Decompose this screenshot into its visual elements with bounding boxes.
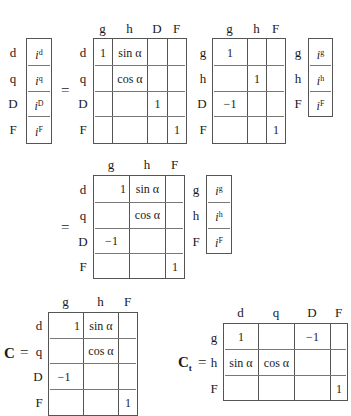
vector-entry: iq — [27, 72, 51, 88]
col-label: h — [83, 295, 118, 309]
vector-entry: iF — [207, 234, 231, 250]
row-label: F — [6, 123, 20, 137]
matrix-cell: 1 — [213, 46, 247, 60]
row-label: d — [6, 46, 20, 60]
vector-entry: ig — [309, 46, 332, 62]
col-label: g — [48, 295, 83, 309]
matrix-cell: 1 — [148, 97, 167, 111]
vector-entry: iD — [27, 97, 51, 113]
col-label: F — [118, 295, 137, 309]
matrix-cell: cos α — [130, 208, 165, 222]
row-label: h — [189, 209, 203, 223]
row-label: q — [76, 209, 90, 223]
col-label: F — [330, 306, 347, 320]
col-label: F — [266, 22, 285, 36]
matrix-cell: cos α — [113, 72, 147, 86]
matrix-cell: −1 — [295, 330, 330, 344]
matrix-cell: 1 — [119, 396, 137, 410]
vector-grid: ig ih iF — [206, 175, 232, 254]
row-label: q — [32, 345, 46, 359]
row-label: D — [195, 97, 209, 111]
row-label: F — [76, 123, 90, 137]
matrix-cell: 1 — [166, 260, 184, 274]
matrix-grid: 1 −1 sin α cos α 1 — [223, 323, 348, 401]
col-label: g — [212, 22, 247, 36]
row-label: D — [31, 370, 45, 384]
matrix-cell: sin α — [130, 182, 165, 196]
row-label: F — [32, 396, 46, 410]
col-label: D — [294, 306, 330, 320]
matrix-grid: 1 sin α cos α −1 1 — [93, 175, 185, 279]
col-label: h — [112, 22, 147, 36]
col-label: h — [129, 158, 165, 172]
equals-sign: = — [198, 354, 206, 371]
matrix-cell: 1 — [168, 123, 186, 137]
vector-entry: ih — [309, 72, 332, 88]
matrix-cell: 1 — [224, 330, 258, 344]
matrix-cell: 1 — [49, 319, 80, 333]
row-label: q — [76, 72, 90, 86]
matrix-cell: sin α — [84, 319, 118, 333]
row-label: d — [76, 46, 90, 60]
matrix-cell: −1 — [94, 234, 129, 248]
matrix-cell: sin α — [224, 356, 258, 370]
matrix-cell: cos α — [259, 356, 294, 370]
row-label: F — [196, 123, 210, 137]
matrix-cell: 1 — [267, 123, 285, 137]
equals-sign: = — [61, 82, 69, 99]
vector-entry: ig — [207, 182, 231, 198]
row-label: g — [189, 183, 203, 197]
equals-sign: = — [61, 219, 69, 236]
col-label: g — [93, 22, 112, 36]
row-label: D — [76, 97, 90, 111]
vector-grid: ig ih iF — [308, 38, 333, 117]
row-label: d — [76, 183, 90, 197]
row-label: g — [196, 46, 210, 60]
matrix-cell: 1 — [248, 72, 266, 86]
row-label: d — [32, 319, 46, 333]
matrix-cell: sin α — [113, 46, 147, 60]
col-label: g — [93, 158, 129, 172]
row-label: g — [291, 46, 305, 60]
row-label: F — [189, 235, 203, 249]
col-label: D — [147, 22, 167, 36]
matrix-name: Ct — [178, 354, 192, 373]
equals-sign: = — [20, 344, 28, 361]
row-label: h — [196, 72, 210, 86]
col-label: F — [165, 158, 184, 172]
matrix-cell: 1 — [94, 182, 126, 196]
row-label: D — [6, 97, 20, 111]
matrix-cell: 1 — [94, 46, 112, 60]
row-label: g — [207, 331, 221, 345]
row-label: h — [291, 72, 305, 86]
row-label: q — [6, 72, 20, 86]
matrix-cell: cos α — [84, 344, 118, 358]
matrix-name: C — [4, 345, 15, 362]
row-label: F — [207, 382, 221, 396]
matrix-grid: 1 1 −1 1 — [212, 38, 286, 144]
matrix-cell: −1 — [213, 97, 247, 111]
matrix-cell: −1 — [49, 370, 79, 384]
vector-entry: id — [27, 46, 51, 62]
matrix-grid: 1 sin α cos α 1 1 — [93, 38, 187, 144]
vector-grid: id iq iD iF — [26, 38, 52, 144]
row-label: F — [76, 260, 90, 274]
col-label: q — [258, 306, 294, 320]
row-label: h — [207, 356, 221, 370]
matrix-cell: 1 — [331, 382, 347, 396]
vector-entry: iF — [27, 123, 51, 139]
row-label: D — [76, 235, 90, 249]
vector-entry: ih — [207, 208, 231, 224]
col-label: F — [167, 22, 186, 36]
matrix-grid: 1 sin α cos α −1 1 — [48, 312, 138, 416]
col-label: h — [247, 22, 266, 36]
vector-entry: iF — [309, 97, 332, 113]
col-label: d — [223, 306, 258, 320]
row-label: F — [291, 97, 305, 111]
